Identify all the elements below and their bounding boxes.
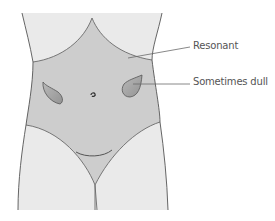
label-sometimes-dull: Sometimes dull: [193, 77, 268, 87]
abdomen-illustration: [0, 0, 275, 221]
label-resonant: Resonant: [193, 41, 238, 51]
abdomen-diagram: Resonant Sometimes dull: [0, 0, 275, 221]
